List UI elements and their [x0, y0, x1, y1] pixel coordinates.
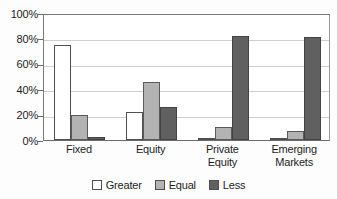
y-axis-tick-label: 100% [0, 9, 38, 20]
y-axis-tick-label: 20% [0, 110, 38, 121]
bar-less-private-equity [232, 36, 249, 140]
bar-equal-equity [143, 82, 160, 140]
bar-chart: 0%20%40%60%80%100% FixedEquityPrivateEqu… [0, 0, 337, 199]
y-axis-tick-label: 0% [0, 136, 38, 147]
y-axis-tick-label: 60% [0, 59, 38, 70]
legend-swatch-equal-icon [155, 180, 165, 190]
bar-greater-emerging-markets [270, 138, 287, 140]
bar-greater-private-equity [198, 138, 215, 140]
bar-equal-emerging-markets [287, 131, 304, 140]
x-axis-category-label: PrivateEquity [187, 143, 259, 168]
legend-label: Equal [169, 180, 196, 191]
bar-greater-equity [126, 112, 143, 140]
legend-swatch-less-icon [209, 180, 219, 190]
legend-label: Less [223, 180, 245, 191]
bar-less-emerging-markets [304, 37, 321, 140]
x-axis-category-label: EmergingMarkets [258, 143, 330, 168]
x-axis-category-line: Private [187, 143, 259, 156]
chart-legend: GreaterEqualLess [0, 176, 337, 194]
x-axis-category-line: Equity [115, 143, 187, 156]
bar-equal-fixed [71, 115, 88, 140]
bar-less-fixed [88, 137, 105, 140]
x-axis-category-line: Emerging [258, 143, 330, 156]
y-axis-tickmark [38, 141, 43, 142]
legend-swatch-greater-icon [92, 180, 102, 190]
bar-less-equity [160, 107, 177, 140]
x-axis: FixedEquityPrivateEquityEmergingMarkets [43, 143, 330, 173]
y-axis-tick-label: 40% [0, 85, 38, 96]
x-axis-category-label: Equity [115, 143, 187, 156]
bars-layer [44, 15, 329, 140]
plot-area [43, 14, 330, 141]
x-axis-category-line: Markets [258, 156, 330, 169]
bar-greater-fixed [54, 45, 71, 140]
legend-item-less[interactable]: Less [209, 180, 245, 191]
y-axis-tick-label: 80% [0, 34, 38, 45]
x-axis-category-label: Fixed [43, 143, 115, 156]
legend-item-greater[interactable]: Greater [92, 180, 142, 191]
y-axis: 0%20%40%60%80%100% [0, 8, 38, 146]
x-axis-category-line: Fixed [43, 143, 115, 156]
bar-equal-private-equity [215, 127, 232, 140]
legend-item-equal[interactable]: Equal [155, 180, 196, 191]
legend-label: Greater [106, 180, 142, 191]
x-axis-category-line: Equity [187, 156, 259, 169]
